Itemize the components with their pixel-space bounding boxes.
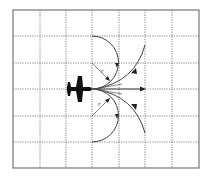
turn-radius-diagram: r r <box>0 0 209 177</box>
lower-radius-label: r <box>98 100 101 108</box>
upper-radius-label: r <box>101 67 104 75</box>
